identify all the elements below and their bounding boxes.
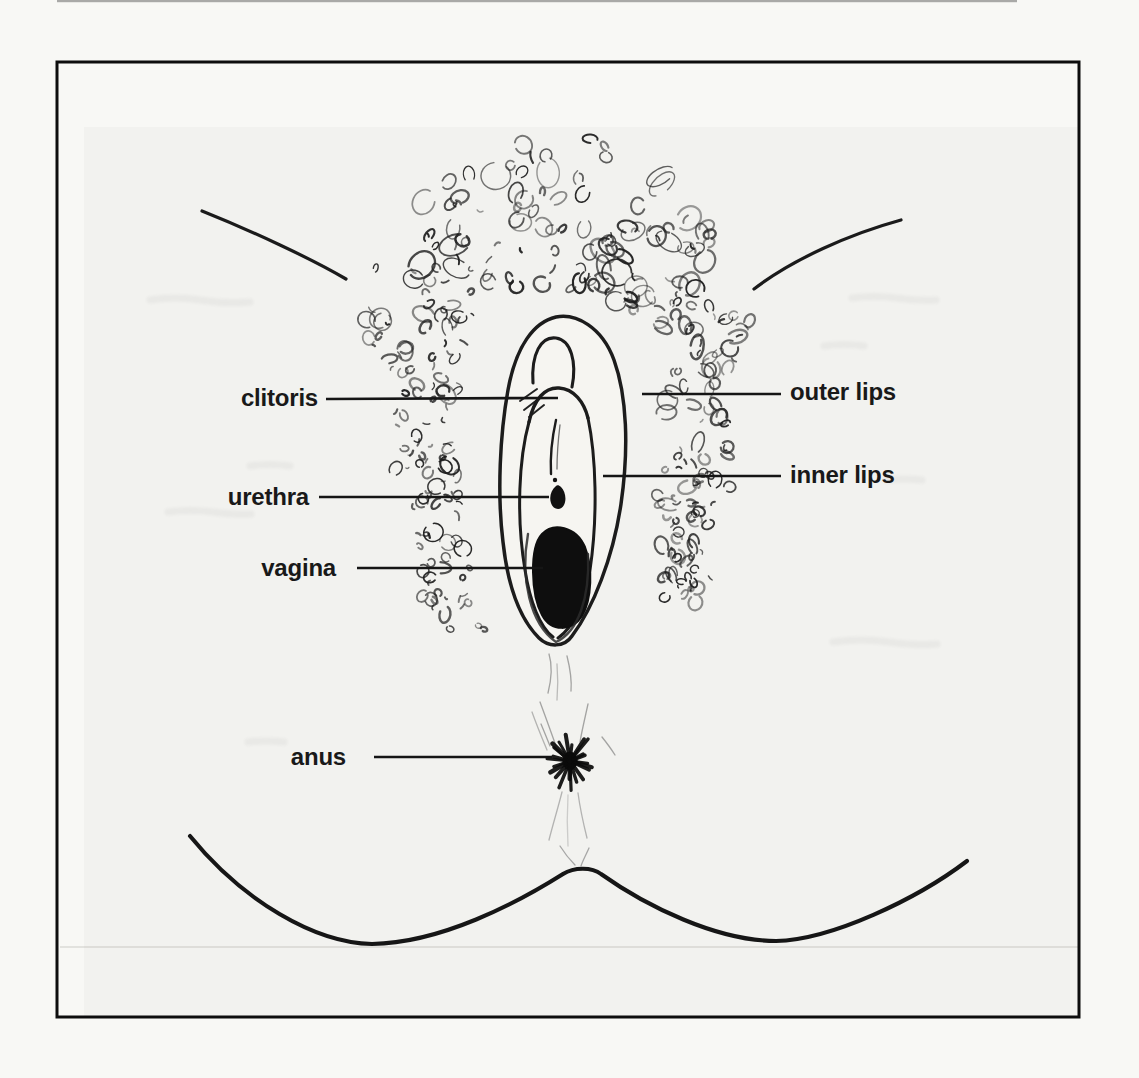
label-vagina: vagina [261,554,336,582]
label-anus: anus [291,743,346,771]
scan-edge-strip [57,0,1017,2]
label-inner-lips: inner lips [790,461,895,489]
vaginal-opening [533,527,590,628]
label-urethra: urethra [228,483,309,511]
scanned-page: clitoris urethra vagina anus outer lips … [0,0,1139,1078]
label-outer-lips: outer lips [790,378,896,406]
leader-clitoris [326,398,558,399]
label-clitoris: clitoris [241,384,318,412]
anatomy-drawing [0,0,1139,1078]
